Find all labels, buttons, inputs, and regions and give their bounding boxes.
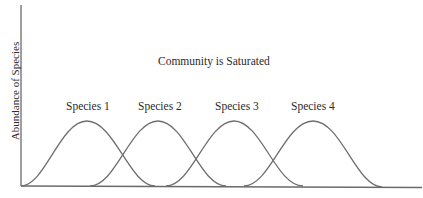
species-2-curve: [90, 121, 226, 186]
x-axis: [21, 186, 422, 188]
species-abundance-diagram: [0, 0, 423, 198]
species-4-curve: [244, 121, 382, 187]
species-2-label: Species 2: [138, 100, 182, 112]
species-1-curve: [21, 121, 155, 186]
species-3-curve: [166, 121, 303, 186]
species-4-label: Species 4: [291, 100, 335, 112]
species-1-label: Species 1: [66, 100, 110, 112]
species-3-label: Species 3: [215, 100, 259, 112]
diagram-title: Community is Saturated: [158, 55, 270, 67]
y-axis-label: Abundance of Species: [9, 41, 21, 141]
